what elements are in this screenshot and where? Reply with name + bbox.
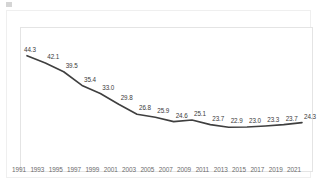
plot-area bbox=[20, 27, 313, 172]
x-tick-label: 2015 bbox=[232, 164, 246, 176]
chart-card: 44.342.139.535.433.029.826.825.924.625.1… bbox=[6, 10, 311, 178]
x-tick-label: 1993 bbox=[30, 164, 44, 176]
x-tick-label: 2013 bbox=[214, 164, 228, 176]
data-label: 24.6 bbox=[176, 112, 188, 119]
data-label: 35.4 bbox=[84, 76, 96, 83]
x-axis-tick-labels: 1991199319951997199920012003200520072009… bbox=[0, 164, 318, 176]
x-tick-label: 1995 bbox=[49, 164, 63, 176]
data-label: 25.1 bbox=[194, 110, 206, 117]
x-tick-label: 2017 bbox=[250, 164, 264, 176]
x-tick-label: 2011 bbox=[196, 164, 209, 176]
truncated-title-strip bbox=[0, 0, 318, 9]
x-tick-label: 2021 bbox=[287, 164, 301, 176]
x-tick-label: 1997 bbox=[67, 164, 81, 176]
data-label: 39.5 bbox=[66, 62, 78, 69]
data-label: 23.7 bbox=[286, 115, 298, 122]
data-label: 42.1 bbox=[47, 53, 59, 60]
line-series bbox=[21, 28, 312, 171]
x-tick-label: 2005 bbox=[140, 164, 154, 176]
data-label: 26.8 bbox=[139, 104, 151, 111]
x-tick-label: 1999 bbox=[85, 164, 99, 176]
title-marker-icon bbox=[6, 2, 12, 7]
data-label: 25.9 bbox=[157, 107, 169, 114]
data-label: 44.3 bbox=[24, 46, 36, 53]
x-tick-label: 1991 bbox=[12, 164, 26, 176]
data-label: 33.0 bbox=[102, 84, 114, 91]
data-label: 29.8 bbox=[121, 94, 133, 101]
data-label: 22.9 bbox=[231, 117, 243, 124]
x-tick-label: 2003 bbox=[122, 164, 136, 176]
chart-screenshot: 44.342.139.535.433.029.826.825.924.625.1… bbox=[0, 0, 318, 185]
x-tick-label: 2001 bbox=[104, 164, 118, 176]
data-label: 23.3 bbox=[267, 116, 279, 123]
x-tick-label: 2009 bbox=[177, 164, 191, 176]
x-tick-label: 2007 bbox=[159, 164, 173, 176]
x-tick-label: 2019 bbox=[269, 164, 283, 176]
data-label: 23.7 bbox=[212, 115, 224, 122]
data-label: 24.3 bbox=[304, 113, 316, 120]
data-label: 23.0 bbox=[249, 117, 261, 124]
